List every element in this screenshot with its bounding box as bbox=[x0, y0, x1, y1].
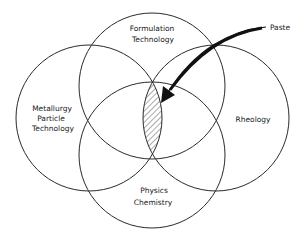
arrow-icon bbox=[161, 27, 266, 103]
label-paste: Paste bbox=[270, 23, 291, 32]
label-chemistry: Chemistry bbox=[134, 198, 173, 207]
label-physics: Physics bbox=[140, 186, 168, 195]
label-metallurgy: Metallurgy bbox=[32, 104, 72, 113]
label-formulation: Formulation bbox=[130, 24, 175, 33]
label-technology-top: Technology bbox=[131, 35, 175, 44]
label-technology-left: Technology bbox=[31, 124, 75, 133]
label-particle: Particle bbox=[37, 114, 65, 123]
label-rheology: Rheology bbox=[235, 115, 271, 124]
venn-diagram: Formulation Technology Metallurgy Partic… bbox=[0, 0, 304, 238]
